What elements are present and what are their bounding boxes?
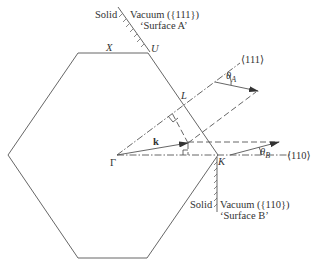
theta-b-label: θB [260, 146, 270, 160]
k-projection-perp-111 [172, 113, 188, 143]
surface-b-solid-label: Solid [190, 199, 213, 210]
point-x-label: X [105, 42, 113, 53]
brillouin-zone-diagram: Solid Vacuum ({111}) ‘Surface A’ X U L K… [0, 0, 321, 266]
point-u-label: U [151, 43, 160, 54]
point-gamma-label: Γ [110, 157, 116, 168]
right-angle-mark-111 [168, 116, 178, 122]
k-vector-label: k [153, 136, 159, 147]
transmitted-wave-a-arrow [215, 82, 258, 91]
point-l-label: L [180, 90, 187, 101]
surface-b-name-label: ‘Surface B’ [220, 210, 269, 221]
theta-a-label: θA [226, 70, 236, 84]
point-k-label: K [217, 156, 226, 167]
surface-a-solid-label: Solid [95, 9, 118, 20]
direction-111-line [117, 63, 240, 155]
direction-110-label: ⟨110⟩ [287, 150, 311, 161]
hexagon-zone-boundary [8, 53, 218, 258]
right-angle-mark-110 [183, 150, 188, 155]
surface-a-name-label: ‘Surface A’ [140, 20, 188, 31]
k-parallel-111-dashed [188, 92, 256, 143]
transmitted-wave-b-arrow [230, 142, 279, 155]
direction-111-label: ⟨111⟩ [241, 54, 264, 65]
